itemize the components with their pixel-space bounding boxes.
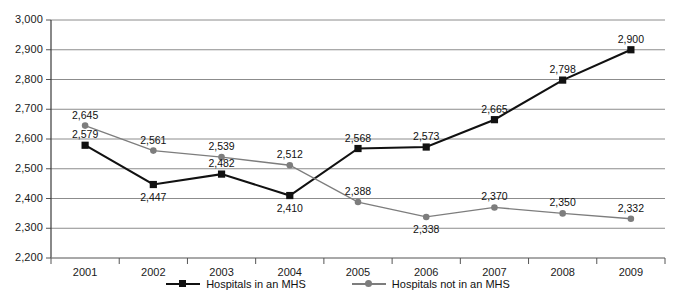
data-point-label: 2,332 <box>601 202 661 214</box>
x-axis-tick-label: 2009 <box>601 266 661 278</box>
y-axis-tick-label: 3,000 <box>15 13 43 25</box>
y-axis-tick-label: 2,400 <box>15 192 43 204</box>
x-axis-tick-label: 2008 <box>533 266 593 278</box>
data-point-marker <box>150 181 157 188</box>
data-point-label: 2,410 <box>260 202 320 214</box>
x-axis-tickmarks <box>51 258 665 264</box>
x-axis-tick-label: 2003 <box>192 266 252 278</box>
data-point-label: 2,798 <box>533 63 593 75</box>
x-axis-tick-label: 2005 <box>328 266 388 278</box>
y-axis-tick-label: 2,900 <box>15 43 43 55</box>
x-axis-tick-label: 2001 <box>55 266 115 278</box>
data-point-label: 2,512 <box>260 148 320 160</box>
data-point-label: 2,568 <box>328 132 388 144</box>
legend-label-hospitals-in-an-mhs: Hospitals in an MHS <box>206 278 306 290</box>
data-point-label: 2,900 <box>601 33 661 45</box>
data-point-label: 2,388 <box>328 185 388 197</box>
y-axis-tick-label: 2,500 <box>15 162 43 174</box>
legend-item-hospitals-in-an-mhs[interactable]: Hospitals in an MHS <box>166 278 306 290</box>
legend-item-hospitals-not-in-an-mhs[interactable]: Hospitals not in an MHS <box>352 278 510 290</box>
data-point-label: 2,561 <box>123 134 183 146</box>
data-point-marker <box>150 147 157 154</box>
line-chart: 2,2002,3002,4002,5002,6002,7002,8002,900… <box>0 0 676 307</box>
data-point-label: 2,645 <box>55 109 115 121</box>
data-point-marker <box>559 76 566 83</box>
data-point-marker <box>627 46 634 53</box>
data-point-label: 2,350 <box>533 196 593 208</box>
x-axis-tick-label: 2002 <box>123 266 183 278</box>
y-axis-tick-label: 2,600 <box>15 132 43 144</box>
y-axis-tick-label: 2,800 <box>15 73 43 85</box>
data-point-label: 2,573 <box>396 130 456 142</box>
data-point-marker <box>491 204 498 211</box>
data-point-label: 2,579 <box>55 128 115 140</box>
y-axis-tick-label: 2,700 <box>15 102 43 114</box>
y-axis-tick-label: 2,300 <box>15 221 43 233</box>
circle-marker-icon <box>352 279 386 289</box>
data-point-label: 2,338 <box>396 223 456 235</box>
data-point-label: 2,447 <box>123 191 183 203</box>
data-point-marker <box>355 199 362 206</box>
data-point-marker <box>218 171 225 178</box>
chart-legend: Hospitals in an MHS Hospitals not in an … <box>0 278 676 290</box>
data-point-label: 2,482 <box>192 157 252 169</box>
y-axis-tick-label: 2,200 <box>15 251 43 263</box>
data-point-marker <box>82 142 89 149</box>
data-point-label: 2,665 <box>464 103 524 115</box>
chart-plot-area <box>0 0 676 307</box>
data-point-marker <box>491 116 498 123</box>
x-axis-tick-label: 2006 <box>396 266 456 278</box>
data-point-label: 2,370 <box>464 190 524 202</box>
x-axis-tick-label: 2007 <box>464 266 524 278</box>
data-point-label: 2,539 <box>192 140 252 152</box>
data-point-marker <box>286 192 293 199</box>
data-point-marker <box>628 215 635 222</box>
data-point-marker <box>423 143 430 150</box>
data-point-marker <box>559 210 566 217</box>
x-axis-tick-label: 2004 <box>260 266 320 278</box>
square-marker-icon <box>166 279 200 289</box>
data-point-marker <box>286 162 293 169</box>
data-point-marker <box>423 214 430 221</box>
legend-label-hospitals-not-in-an-mhs: Hospitals not in an MHS <box>392 278 510 290</box>
data-point-marker <box>354 145 361 152</box>
